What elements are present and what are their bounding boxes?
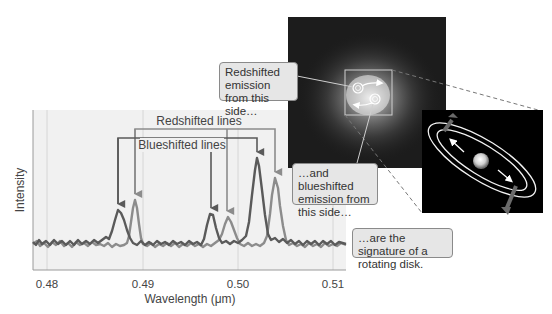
rotating-disk-diagram: [419, 110, 545, 215]
figure: Redshifted lines Blueshifted lines 0.48 …: [0, 0, 552, 314]
callout-redshifted-emission: Redshifted emission from this side…: [219, 62, 298, 101]
callout-blueshifted-emission: …and blueshifted emission from this side…: [292, 163, 378, 205]
x-tick-label: 0.48: [36, 278, 58, 290]
x-tick-label: 0.50: [227, 278, 249, 290]
x-axis-label: Wavelength (μm): [144, 292, 235, 306]
x-tick-label: 0.49: [132, 278, 154, 290]
x-tick-label: 0.51: [322, 278, 344, 290]
callout-rotating-disk-signature: …are the signature of a rotating disk.: [352, 228, 453, 258]
blueshifted-lines-label: Blueshifted lines: [138, 138, 225, 152]
y-axis-label: Intensity: [13, 168, 27, 213]
x-tick-labels: 0.48 0.49 0.50 0.51: [36, 278, 344, 290]
central-star: [473, 153, 489, 169]
